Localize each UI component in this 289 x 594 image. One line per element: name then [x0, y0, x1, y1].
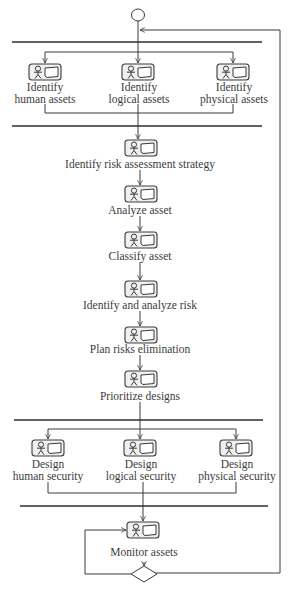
activity-identify-human-assets-icon [29, 64, 61, 80]
initial-node [132, 9, 145, 21]
activity-identify-physical-assets-icon [217, 64, 249, 80]
activity-label: Identify risk assessment strategy [40, 158, 240, 170]
activity-identify-logical-assets-icon [122, 64, 154, 80]
activity-design-physical-security-icon [220, 440, 252, 456]
activity-prioritize-designs-icon [125, 371, 157, 387]
activity-label: Identify human assets [10, 81, 80, 105]
activity-label: Identify and analyze risk [40, 299, 240, 311]
activity-label: Prioritize designs [40, 390, 240, 402]
activity-label: Analyze asset [40, 204, 240, 216]
activity-label: Monitor assets [94, 546, 194, 558]
activity-monitor-assets-icon [127, 522, 159, 538]
activity-identify-and-analyze-risk-icon [125, 281, 157, 297]
activity-label: Design logical security [104, 458, 178, 482]
activity-identify-risk-assessment-strategy-icon [125, 140, 157, 156]
activity-label: Design physical security [196, 458, 278, 482]
activity-label: Identify physical assets [196, 81, 272, 105]
activity-label: Classify asset [40, 250, 240, 262]
activity-plan-risks-elimination-icon [125, 327, 157, 343]
activity-label: Plan risks elimination [40, 343, 240, 355]
activity-analyze-asset-icon [125, 186, 157, 202]
activity-label: Design human security [12, 458, 84, 482]
activity-design-human-security-icon [32, 440, 64, 456]
activity-design-logical-security-icon [124, 440, 156, 456]
activity-classify-asset-icon [125, 232, 157, 248]
decision-node [131, 566, 157, 582]
activity-label: Identify logical assets [103, 81, 175, 105]
